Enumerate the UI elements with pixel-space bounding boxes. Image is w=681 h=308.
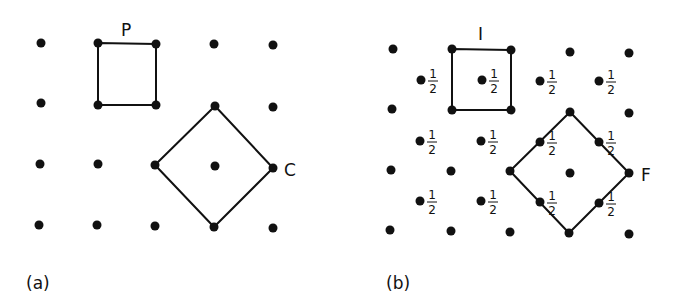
lattice-diagram: PC(a) 121212121212121212121212IF(b) [0,0,681,308]
fraction-numerator: 1 [548,189,556,203]
half-height-label: 12 [489,67,499,96]
fraction-denominator: 2 [548,83,556,97]
lattice-point [37,39,46,48]
lattice-point [506,167,515,176]
fraction-denominator: 2 [489,143,497,157]
fraction-numerator: 1 [607,68,615,82]
half-height-label: 12 [427,128,437,157]
panel-caption: (b) [386,273,410,293]
fraction-denominator: 2 [490,82,498,96]
lattice-point [625,109,634,118]
lattice-point [565,229,574,238]
lattice-point [94,39,103,48]
lattice-point [386,226,395,235]
half-height-lattice-point [595,77,604,86]
fraction-denominator: 2 [489,203,497,217]
half-height-label: 12 [488,188,498,217]
lattice-point [566,108,575,117]
lattice-point [36,160,45,169]
fraction-numerator: 1 [428,188,436,202]
primitive-cell-label: P [121,20,131,40]
fraction-numerator: 1 [548,68,556,82]
fraction-numerator: 1 [548,129,556,143]
half-height-label: 12 [606,129,616,158]
lattice-point [94,160,103,169]
half-height-label: 12 [488,128,498,157]
lattice-point [507,46,516,55]
lattice-point [447,227,456,236]
fraction-numerator: 1 [489,188,497,202]
half-height-lattice-point [536,138,545,147]
lattice-point [152,101,161,110]
lattice-point [151,161,160,170]
panel-caption: (a) [26,273,50,293]
lattice-point [447,167,456,176]
lattice-point [152,40,161,49]
panel-b: 121212121212121212121212IF(b) [386,24,651,293]
lattice-point [388,105,397,114]
lattice-point [211,102,220,111]
lattice-point [210,40,219,49]
lattice-point [269,224,278,233]
half-height-label: 12 [606,68,616,97]
lattice-point [211,162,220,171]
fraction-denominator: 2 [607,83,615,97]
lattice-point [389,45,398,54]
lattice-point [37,99,46,108]
fraction-numerator: 1 [607,129,615,143]
half-height-lattice-point [595,199,604,208]
half-height-lattice-point [416,197,425,206]
fraction-denominator: 2 [548,204,556,218]
half-height-lattice-point [417,76,426,85]
half-height-label: 12 [547,129,557,158]
fraction-denominator: 2 [607,144,615,158]
half-height-label: 12 [547,68,557,97]
half-height-lattice-point [477,197,486,206]
fraction-numerator: 1 [489,128,497,142]
fraction-denominator: 2 [428,203,436,217]
lattice-point [210,223,219,232]
lattice-point [94,101,103,110]
lattice-point [506,228,515,237]
fraction-numerator: 1 [428,128,436,142]
half-height-label: 12 [427,188,437,217]
lattice-point [448,106,457,115]
half-height-lattice-point [536,198,545,207]
lattice-point [448,45,457,54]
primitive-cell-outline [98,43,156,105]
lattice-point [625,230,634,239]
half-height-label: 12 [428,67,438,96]
primitive-cell-label: I [478,24,483,44]
lattice-point [625,169,634,178]
lattice-point [93,221,102,230]
panel-a: PC(a) [26,20,296,293]
lattice-point [269,164,278,173]
fraction-denominator: 2 [429,82,437,96]
lattice-point [35,221,44,230]
fraction-denominator: 2 [428,143,436,157]
lattice-point [269,103,278,112]
half-height-label: 12 [606,190,616,219]
lattice-point [507,106,516,115]
lattice-point [387,166,396,175]
fraction-numerator: 1 [607,190,615,204]
fraction-numerator: 1 [429,67,437,81]
fraction-numerator: 1 [490,67,498,81]
half-height-lattice-point [478,76,487,85]
half-height-lattice-point [536,77,545,86]
lattice-point [151,222,160,231]
lattice-point [566,48,575,57]
half-height-lattice-point [477,137,486,146]
half-height-label: 12 [547,189,557,218]
lattice-point [566,169,575,178]
fraction-denominator: 2 [548,144,556,158]
centered-cell-label: C [284,160,296,180]
lattice-point [625,49,634,58]
fraction-denominator: 2 [607,205,615,219]
half-height-lattice-point [416,137,425,146]
half-height-lattice-point [595,138,604,147]
centered-cell-label: F [641,165,651,185]
lattice-point [269,41,278,50]
